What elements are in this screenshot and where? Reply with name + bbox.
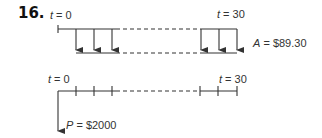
annuity-diagram — [58, 25, 237, 53]
cash-flow-diagrams — [0, 0, 322, 138]
present-value-diagram — [58, 86, 237, 131]
